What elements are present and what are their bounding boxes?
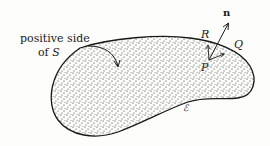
point-q-label: Q [234, 39, 243, 50]
curve-label: ℰ [183, 104, 188, 113]
positive-side-label: positive side [20, 33, 90, 44]
surface-diagram: positive side of S n R Q P ℰ [0, 0, 270, 146]
surface-drawing [0, 0, 270, 146]
normal-label: n [223, 8, 230, 18]
point-r-label: R [201, 29, 209, 40]
positive-side-label-line2: of S [38, 47, 60, 58]
surface-name: S [52, 46, 60, 59]
point-p-label: P [201, 62, 208, 73]
surface-region [51, 36, 254, 136]
of-text: of [38, 46, 52, 59]
